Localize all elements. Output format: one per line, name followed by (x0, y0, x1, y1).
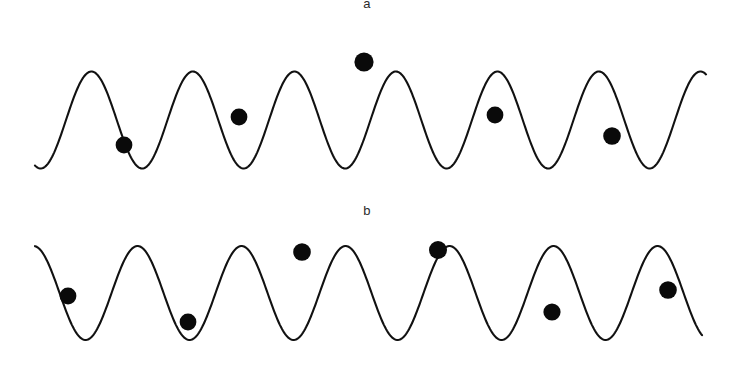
figure-root: a b (0, 0, 734, 370)
wave-curve-a (35, 72, 706, 169)
particle-marker (180, 314, 197, 331)
panel-b: b (0, 195, 734, 370)
particle-marker (60, 288, 77, 305)
wave-plot-b (0, 195, 734, 370)
particle-group-a (116, 52, 621, 153)
particle-marker (116, 137, 133, 154)
particle-marker (354, 52, 373, 71)
wave-plot-a (0, 0, 734, 195)
particle-marker (293, 243, 311, 261)
particle-marker (659, 281, 677, 299)
particle-marker (543, 303, 560, 320)
particle-marker (603, 127, 621, 145)
particle-marker (487, 107, 504, 124)
panel-a: a (0, 0, 734, 195)
particle-marker (231, 109, 248, 126)
particle-marker (429, 241, 447, 259)
wave-curve-b (35, 246, 702, 340)
